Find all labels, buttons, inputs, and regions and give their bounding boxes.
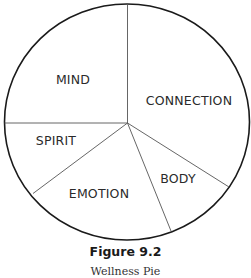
figure-caption-title: Figure 9.2	[0, 244, 251, 259]
slice-label-connection: CONNECTION	[146, 93, 232, 108]
pie-outline	[5, 4, 250, 240]
wellness-pie-chart: MIND CONNECTION BODY EMOTION SPIRIT	[0, 0, 251, 245]
slice-label-emotion: EMOTION	[69, 186, 129, 201]
slice-label-spirit: SPIRIT	[36, 133, 77, 148]
slice-label-mind: MIND	[56, 72, 90, 87]
slice-label-body: BODY	[160, 171, 196, 186]
figure-caption-subtitle: Wellness Pie	[0, 265, 251, 278]
